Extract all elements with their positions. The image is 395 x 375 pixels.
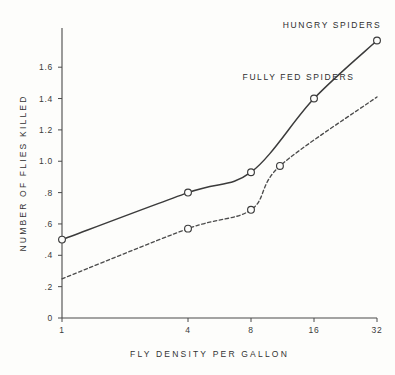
x-axis-tick-labels: 1481632 — [59, 325, 382, 335]
y-axis-ticks — [58, 67, 62, 318]
hungry-spiders-markers — [59, 37, 381, 243]
fully-fed-spiders-curve — [62, 97, 377, 279]
y-tick-label: 1.4 — [39, 94, 53, 104]
x-axis-ticks — [62, 318, 377, 322]
data-point-marker — [59, 236, 66, 243]
y-axis-title: NUMBER OF FLIES KILLED — [18, 94, 28, 251]
data-point-marker — [185, 189, 192, 196]
data-point-marker — [277, 163, 284, 170]
data-point-marker — [311, 95, 318, 102]
x-tick-label: 1 — [59, 325, 64, 335]
y-tick-label: .2 — [45, 282, 54, 292]
y-tick-label: 1.2 — [39, 125, 53, 135]
y-axis-tick-labels: 0.2.4.6.81.01.21.41.6 — [39, 62, 53, 323]
y-tick-label: 1.0 — [39, 156, 53, 166]
x-axis-title: FLY DENSITY PER GALLON — [130, 349, 289, 359]
y-tick-label: .8 — [45, 188, 54, 198]
y-tick-label: .6 — [45, 219, 54, 229]
y-tick-label: 0 — [48, 313, 53, 323]
fully-fed-spiders-label: FULLY FED SPIDERS — [243, 72, 355, 82]
fully-fed-spiders-markers — [185, 163, 284, 233]
chart-figure: 0.2.4.6.81.01.21.41.6 1481632 FLY DENSIT… — [0, 0, 395, 375]
data-point-marker — [248, 206, 255, 213]
x-tick-label: 4 — [185, 325, 190, 335]
flies-killed-line-chart: 0.2.4.6.81.01.21.41.6 1481632 FLY DENSIT… — [0, 0, 395, 375]
hungry-spiders-curve — [62, 41, 377, 240]
hungry-spiders-label: HUNGRY SPIDERS — [283, 20, 382, 30]
data-point-marker — [374, 37, 381, 44]
x-tick-label: 8 — [248, 325, 253, 335]
x-tick-label: 16 — [309, 325, 320, 335]
data-point-marker — [248, 169, 255, 176]
data-point-marker — [185, 225, 192, 232]
y-tick-label: 1.6 — [39, 62, 53, 72]
y-tick-label: .4 — [45, 250, 54, 260]
x-tick-label: 32 — [372, 325, 383, 335]
